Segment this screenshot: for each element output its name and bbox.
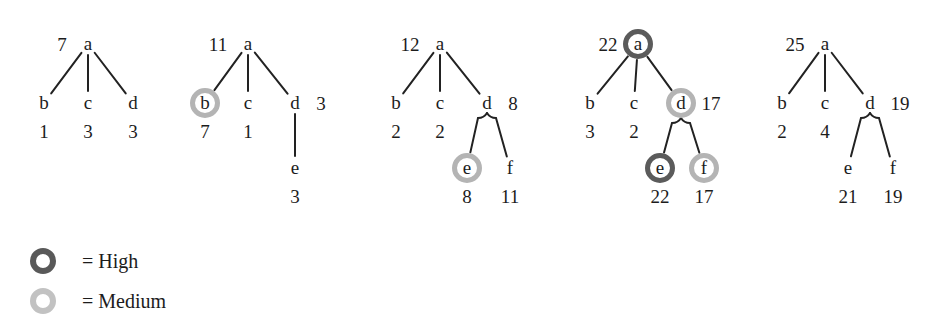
tree-node-a: a [425, 29, 455, 59]
tree-node-d: d [280, 88, 310, 118]
legend-ring-high-icon [30, 248, 56, 274]
tree-edge [851, 113, 870, 156]
tree-node-e: e [833, 153, 863, 183]
tree-node-b: b [381, 88, 411, 118]
tree-node-b: b [575, 88, 605, 118]
tree-edge [95, 53, 126, 94]
node-value: 19 [884, 187, 903, 206]
node-label: b [39, 93, 49, 112]
node-label: f [507, 158, 513, 177]
node-value: 11 [501, 187, 519, 206]
node-value: 4 [820, 122, 830, 141]
node-label: d [290, 93, 300, 112]
legend-item-high: = High [30, 248, 138, 274]
tree-node-d: d [855, 88, 885, 118]
node-value: 8 [508, 94, 518, 113]
tree-node-d: d [118, 88, 148, 118]
node-label: b [777, 93, 787, 112]
tree-node-e: e [645, 153, 675, 183]
node-value: 7 [57, 35, 67, 54]
node-label: a [436, 34, 444, 53]
tree-node-d: d [472, 88, 502, 118]
tree-node-a: a [810, 29, 840, 59]
tree-node-e: e [452, 153, 482, 183]
tree-node-b: b [767, 88, 797, 118]
node-label: a [244, 34, 252, 53]
node-label: f [701, 158, 707, 177]
tree-node-f: f [689, 153, 719, 183]
tree-node-c: c [233, 88, 263, 118]
node-value: 22 [651, 187, 670, 206]
node-value: 3 [128, 122, 138, 141]
node-value: 3 [290, 187, 300, 206]
tree-node-b: b [190, 88, 220, 118]
tree-edge [447, 53, 480, 94]
node-label: d [128, 93, 138, 112]
tree-edge [487, 113, 507, 156]
node-label: c [436, 93, 444, 112]
tree-node-c: c [73, 88, 103, 118]
node-value: 22 [599, 35, 618, 54]
node-value: 7 [200, 122, 210, 141]
node-label: c [821, 93, 829, 112]
node-value: 2 [777, 122, 787, 141]
node-label: c [630, 93, 638, 112]
tree-node-a: a [73, 29, 103, 59]
node-label: d [482, 93, 492, 112]
tree-edge [664, 118, 681, 153]
node-value: 17 [702, 94, 721, 113]
tree-edge [255, 53, 288, 94]
tree-node-c: c [425, 88, 455, 118]
node-value: 3 [585, 122, 595, 141]
node-value: 2 [435, 122, 445, 141]
node-label: c [84, 93, 92, 112]
tree-node-f: f [878, 153, 908, 183]
tree-edge [51, 53, 81, 94]
tree-edge [832, 53, 863, 94]
tree-node-f: f [495, 153, 525, 183]
node-label: b [200, 93, 210, 112]
tree-edge [635, 60, 637, 91]
tree-node-c: c [619, 88, 649, 118]
node-value: 1 [39, 122, 49, 141]
node-value: 12 [401, 35, 420, 54]
node-label: d [865, 93, 875, 112]
legend-ring-medium-icon [30, 288, 56, 314]
tree-node-a: a [233, 29, 263, 59]
node-label: e [656, 158, 664, 177]
node-label: a [821, 34, 829, 53]
tree-edge [647, 57, 671, 90]
tree-edge [789, 53, 818, 93]
node-value: 8 [462, 187, 472, 206]
node-label: b [585, 93, 595, 112]
node-label: b [391, 93, 401, 112]
node-label: d [676, 93, 686, 112]
node-label: f [890, 158, 896, 177]
tree-node-c: c [810, 88, 840, 118]
node-value: 17 [695, 187, 714, 206]
node-value: 21 [839, 187, 858, 206]
node-value: 25 [786, 35, 805, 54]
tree-edge [470, 113, 487, 152]
tree-edge [214, 53, 241, 90]
node-label: c [244, 93, 252, 112]
legend-item-medium: = Medium [30, 288, 166, 314]
node-value: 11 [209, 35, 227, 54]
node-value: 3 [83, 122, 93, 141]
tree-edge [403, 53, 433, 94]
node-label: e [291, 158, 299, 177]
tree-edge [598, 56, 628, 93]
tree-node-e: e [280, 153, 310, 183]
node-value: 2 [391, 122, 401, 141]
tree-edge [681, 118, 699, 153]
tree-node-d: d [666, 88, 696, 118]
node-label: e [463, 158, 471, 177]
node-value: 3 [316, 94, 326, 113]
tree-edge [870, 113, 890, 156]
tree-node-b: b [29, 88, 59, 118]
node-value: 19 [891, 94, 910, 113]
node-label: a [84, 34, 92, 53]
legend-label: = Medium [82, 290, 166, 313]
tree-node-a: a [623, 29, 653, 59]
